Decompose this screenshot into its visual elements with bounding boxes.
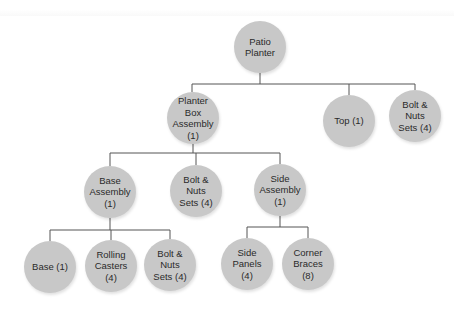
node-base: Base (1) — [24, 241, 76, 293]
node-patio-planter: Patio Planter — [234, 21, 286, 73]
node-bolt-nuts-low: Bolt & Nuts Sets (4) — [144, 239, 196, 291]
node-base-assembly: Base Assembly (1) — [84, 166, 136, 218]
node-planter-box-assembly: Planter Box Assembly (1) — [167, 92, 219, 144]
node-side-assembly: Side Assembly (1) — [254, 164, 306, 216]
node-bolt-nuts-mid: Bolt & Nuts Sets (4) — [170, 165, 222, 217]
node-bolt-nuts-top: Bolt & Nuts Sets (4) — [389, 90, 441, 142]
node-corner-braces: Corner Braces (8) — [282, 238, 334, 290]
node-side-panels: Side Panels (4) — [221, 238, 273, 290]
node-top: Top (1) — [323, 95, 375, 147]
node-rolling-casters: Rolling Casters (4) — [85, 240, 137, 292]
